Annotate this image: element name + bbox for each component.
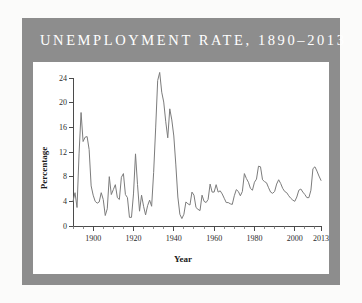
y-tick-label: 8	[63, 172, 67, 181]
x-tick-label: 1940	[166, 234, 182, 243]
y-tick-label: 4	[63, 197, 67, 206]
title-bar: UNEMPLOYMENT RATE, 1890–2013	[22, 18, 340, 62]
chart-axes	[69, 78, 321, 231]
x-tick-label: 1900	[85, 234, 101, 243]
x-tick-label: 2013	[313, 234, 329, 243]
chart-frame: UNEMPLOYMENT RATE, 1890–2013 04812162024…	[22, 18, 340, 285]
y-tick-label: 12	[59, 148, 67, 157]
y-tick-label: 24	[59, 74, 67, 83]
y-tick-label: 0	[63, 222, 67, 231]
y-tick-label: 16	[59, 123, 67, 132]
x-axis-title: Year	[174, 254, 192, 264]
page-title: UNEMPLOYMENT RATE, 1890–2013	[22, 32, 347, 49]
chart-tick-labels: 048121620241900192019401960198020002013	[59, 74, 329, 243]
x-tick-label: 1980	[246, 234, 262, 243]
unemployment-series-line	[73, 72, 321, 218]
plot-area: 048121620241900192019401960198020002013 …	[33, 62, 329, 274]
x-tick-label: 1920	[125, 234, 141, 243]
y-axis-title: Percentage	[39, 147, 49, 189]
figure-container: UNEMPLOYMENT RATE, 1890–2013 04812162024…	[0, 0, 362, 303]
unemployment-line-chart: 048121620241900192019401960198020002013 …	[33, 62, 329, 274]
y-tick-label: 20	[59, 98, 67, 107]
x-tick-label: 1960	[206, 234, 222, 243]
x-tick-label: 2000	[287, 234, 303, 243]
